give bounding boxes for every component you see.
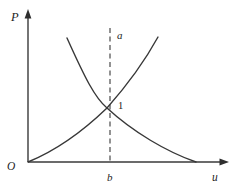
origin-label: O (7, 160, 16, 172)
y-axis-arrow-icon (25, 9, 32, 19)
x-axis-label: u (212, 171, 218, 183)
x-axis-arrow-icon (220, 159, 230, 166)
guide-top-label: a (117, 29, 123, 41)
guide-bottom-label: b (107, 171, 113, 183)
curve-intersection-figure: P O u a b 1 (0, 0, 240, 190)
y-axis-label: P (10, 10, 19, 24)
figure-svg: P O u a b 1 (0, 0, 240, 190)
decreasing-convex-curve (67, 38, 196, 162)
increasing-convex-curve (28, 37, 158, 162)
intersection-point-label: 1 (118, 100, 123, 111)
